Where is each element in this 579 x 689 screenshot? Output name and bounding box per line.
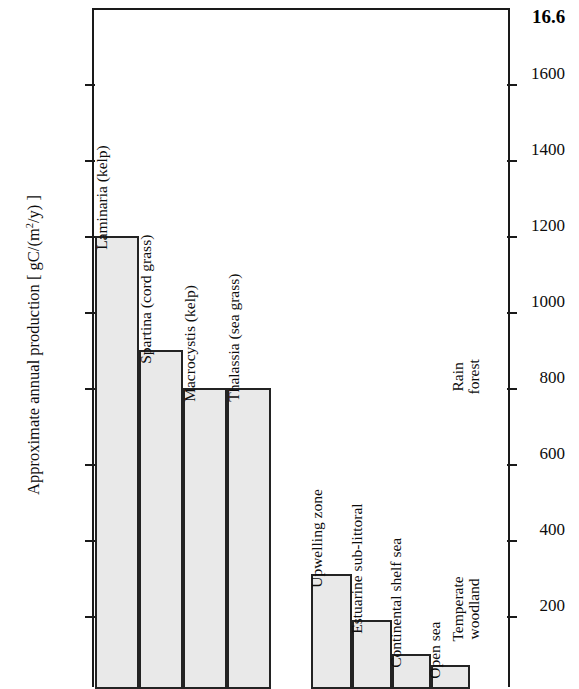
ytick-label-800: 800: [540, 369, 566, 386]
ytick-label-1600: 1600: [531, 65, 565, 82]
bar-label-estuarine-sub-littoral: Estuarine sub-littoral: [349, 503, 365, 633]
y-axis-label-prefix: Approximate annual production [ gC/(m: [24, 228, 43, 495]
ytick-mark-right-400: [507, 540, 517, 542]
bar-thalassia[interactable]: [227, 388, 271, 689]
annotation-temperate-woodland-line2: woodland: [467, 576, 483, 641]
ytick-label-400: 400: [540, 521, 566, 538]
ytick-mark-right-800: [507, 388, 517, 390]
y-axis-label-exponent: 2: [24, 223, 35, 228]
y-axis-label-suffix: /y) ]: [24, 195, 43, 223]
bar-label-continental-shelf-sea: Continental shelf sea: [388, 538, 404, 668]
ytick-label-1000: 1000: [531, 293, 565, 310]
bar-laminaria[interactable]: [95, 236, 139, 689]
bar-upwelling-zone[interactable]: [311, 574, 352, 689]
ytick-mark-600: [85, 464, 95, 466]
bar-label-laminaria: Laminaria (kelp): [94, 145, 110, 250]
ytick-mark-400: [85, 540, 95, 542]
bar-macrocystis[interactable]: [183, 388, 227, 689]
ytick-mark-right-1000: [507, 312, 517, 314]
ytick-mark-right-1400: [507, 160, 517, 162]
ytick-mark-1600: [85, 84, 95, 86]
annotation-temperate-woodland-line1: Temperate: [449, 576, 466, 641]
plot-area: Laminaria (kelp) Spartina (cord grass) M…: [92, 8, 510, 687]
bar-label-macrocystis: Macrocystis (kelp): [182, 285, 198, 402]
ytick-mark-right-1600: [507, 84, 517, 86]
ytick-mark-800: [85, 388, 95, 390]
figure-number: 16.6: [532, 6, 565, 28]
ytick-mark-right-600: [507, 464, 517, 466]
bar-label-spartina: Spartina (cord grass): [138, 235, 154, 364]
ytick-label-1200: 1200: [531, 217, 565, 234]
y-axis-label: Approximate annual production [ gC/(m2/y…: [24, 105, 44, 585]
ytick-mark-right-200: [507, 616, 517, 618]
ytick-mark-right-1200: [507, 236, 517, 238]
bar-label-open-sea: Open sea: [427, 622, 443, 679]
annotation-rain-forest: Rain forest: [450, 359, 483, 394]
bar-label-thalassia: Thalassia (sea grass): [226, 274, 242, 402]
annotation-rain-forest-line1: Rain: [449, 362, 466, 391]
bar-spartina[interactable]: [139, 350, 183, 689]
bar-label-upwelling-zone: Upwelling zone: [309, 489, 325, 588]
ytick-mark-200: [85, 616, 95, 618]
ytick-label-200: 200: [540, 597, 566, 614]
ytick-label-600: 600: [540, 445, 566, 462]
annotation-rain-forest-line2: forest: [467, 359, 483, 394]
annotation-temperate-woodland: Temperate woodland: [450, 576, 483, 641]
ytick-mark-1000: [85, 312, 95, 314]
ytick-label-1400: 1400: [531, 141, 565, 158]
